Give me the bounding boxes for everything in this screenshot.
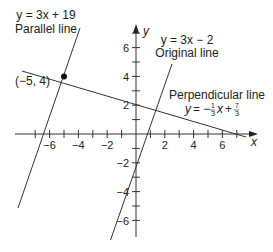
x-tick-label: 4: [191, 139, 197, 151]
y-tick-label: 6: [123, 42, 129, 54]
annotations: y = 3x + 19 Parallel line (−5, 4) y = 3x…: [15, 8, 265, 102]
y-tick-label: −2: [116, 157, 129, 169]
point-label: (−5, 4): [15, 74, 50, 88]
svg-text:3: 3: [211, 110, 215, 117]
coordinate-plane-chart: −6 −4 −2 2 4 6 6 4 2 −2 −4 −6 y x y = 3x…: [0, 0, 273, 252]
original-name-label: Original line: [155, 46, 219, 60]
intersection-point: [61, 73, 67, 79]
perpendicular-equation-label: y = − 1 3 x + 7 3: [184, 102, 239, 117]
svg-text:x: x: [216, 102, 224, 116]
y-tick-label: 4: [123, 71, 129, 83]
parallel-equation-label: y = 3x + 19: [16, 8, 76, 22]
parallel-line: [18, 28, 80, 208]
x-tick-label: −4: [72, 139, 85, 151]
x-tick-label: 6: [219, 139, 225, 151]
svg-text:y: y: [184, 102, 192, 116]
svg-text:3: 3: [235, 110, 239, 117]
x-tick-label: −6: [43, 139, 56, 151]
perpendicular-name-label: Perpendicular line: [169, 88, 265, 102]
x-tick-label: 2: [162, 139, 168, 151]
parallel-name-label: Parallel line: [15, 22, 77, 36]
svg-text:1: 1: [211, 102, 215, 109]
x-tick-label: −2: [101, 139, 114, 151]
y-axis-arrow-icon: [133, 24, 139, 33]
svg-text:7: 7: [235, 102, 239, 109]
original-equation-label: y = 3x − 2: [161, 33, 214, 47]
y-axis-label: y: [142, 24, 150, 38]
svg-text:+: +: [225, 102, 232, 116]
svg-text:= −: = −: [193, 102, 210, 116]
x-axis-label: x: [250, 135, 258, 149]
x-tick-labels: −6 −4 −2 2 4 6: [43, 139, 225, 151]
original-line: [111, 64, 173, 240]
